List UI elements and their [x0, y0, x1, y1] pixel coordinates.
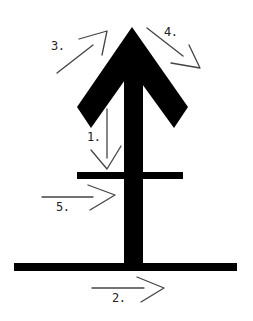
stroke-1-label: 1. [87, 131, 100, 143]
crossbar [77, 172, 183, 179]
stroke-order-diagram [0, 0, 253, 321]
stroke-3-label: 3. [51, 40, 64, 52]
vertical-stem [124, 60, 143, 265]
stroke-2-label: 2. [112, 292, 125, 304]
stroke-4-label: 4. [164, 26, 177, 38]
baseline-bar [14, 263, 237, 271]
stroke-5-label: 5. [56, 201, 69, 213]
